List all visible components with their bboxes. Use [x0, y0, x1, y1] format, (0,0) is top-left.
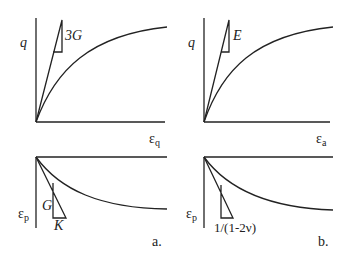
panel-b-eps-p-label: εp: [186, 207, 197, 221]
volumetric-curve: [36, 157, 167, 209]
volumetric-curve: [204, 157, 333, 210]
panel-a-g-label: G: [42, 199, 52, 213]
panel-a-caption: a.: [152, 235, 162, 249]
slope-triangle: [204, 20, 229, 122]
panel-a-q-label: q: [20, 36, 27, 50]
panel-b-slope-e-label: E: [233, 29, 242, 43]
panel-a-k-label: K: [54, 219, 63, 233]
diagram-canvas: [0, 0, 351, 259]
panel-b-top-plot: [204, 18, 333, 122]
slope-triangle: [36, 20, 62, 122]
panel-b-slope-label: 1/(1-2ν): [214, 221, 256, 234]
panel-b-q-label: q: [188, 36, 195, 50]
panel-b-bottom-plot: [204, 157, 333, 228]
panel-a-eps-q-label: εq: [149, 132, 160, 146]
panel-a-top-plot: [36, 18, 167, 122]
panel-b-caption: b.: [318, 235, 329, 249]
panel-b-eps-a-label: εa: [316, 132, 326, 146]
panel-a-slope-3g-label: 3G: [65, 29, 82, 43]
panel-a-eps-p-label: εp: [18, 207, 29, 221]
slope-triangle: [204, 157, 233, 218]
stress-strain-curve: [36, 27, 167, 122]
